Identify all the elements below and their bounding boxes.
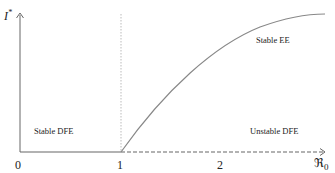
x-tick-1: 1	[117, 158, 123, 172]
stable-ee-label: Stable EE	[256, 35, 290, 45]
x-axis-label: ℜ0	[314, 156, 329, 172]
x-tick-0: 0	[15, 158, 21, 172]
y-axis-label: I*	[3, 8, 12, 23]
bifurcation-chart: I* 0 1 2 ℜ0 Stable DFE Stable EE Unstabl…	[0, 0, 335, 173]
x-tick-2: 2	[217, 158, 223, 172]
unstable-dfe-label: Unstable DFE	[250, 126, 298, 136]
stable-dfe-label: Stable DFE	[34, 126, 73, 136]
